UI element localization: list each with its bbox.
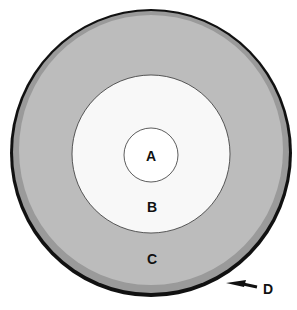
label-c: C (147, 251, 157, 267)
concentric-diagram: A B C D (0, 0, 297, 310)
label-b: B (147, 199, 157, 215)
arrow-icon (226, 280, 257, 287)
label-d: D (263, 281, 273, 297)
label-a: A (146, 148, 156, 164)
